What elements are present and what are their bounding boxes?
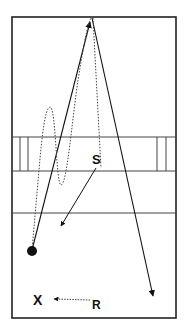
pass-line-down [92,18,153,296]
r-arrow-dotted [54,299,90,300]
label-r: R [92,298,101,312]
label-x: X [33,292,43,308]
label-s: S [92,152,101,167]
s-arrow [61,168,96,226]
drill-diagram: S X R [0,0,187,335]
field-boundary [12,17,176,318]
pass-line-up [32,22,90,250]
ball-icon [27,246,37,256]
